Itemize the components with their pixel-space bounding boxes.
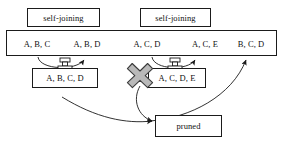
candidate-itemset-bar: A, B, C A, B, D A, C, D A, C, E B, C, D [6, 30, 277, 56]
itemset-cell-abc: A, B, C [13, 31, 61, 57]
self-joining-right-text: self-joining [155, 13, 195, 23]
generated-itemset-acde-text: A, C, D, E [159, 73, 196, 83]
generated-itemset-abcd: A, B, C, D [32, 68, 98, 88]
pruned-label-text: pruned [176, 121, 200, 131]
self-joining-left-text: self-joining [43, 13, 83, 23]
self-join-arc-left [38, 57, 84, 68]
generated-itemset-abcd-text: A, B, C, D [46, 73, 83, 83]
join-connector-right [168, 58, 182, 69]
diagram-canvas: self-joining self-joining A, B, C A, B, … [0, 0, 283, 142]
self-join-arc-right [152, 57, 195, 68]
prune-curve-from-left [62, 97, 152, 122]
itemset-cell-abd: A, B, D [63, 31, 111, 57]
join-connector-left [58, 58, 72, 69]
itemset-cell-bcd: B, C, D [227, 31, 275, 57]
prune-curve-from-cross [136, 86, 152, 121]
self-joining-label-left: self-joining [27, 8, 100, 27]
itemset-cell-ace: A, C, E [181, 31, 229, 57]
generated-itemset-acde: A, C, D, E [148, 68, 206, 88]
itemset-cell-acd: A, C, D [123, 31, 171, 57]
prune-cross-icon [126, 62, 154, 89]
self-joining-label-right: self-joining [140, 8, 211, 27]
pruned-box: pruned [155, 115, 222, 137]
